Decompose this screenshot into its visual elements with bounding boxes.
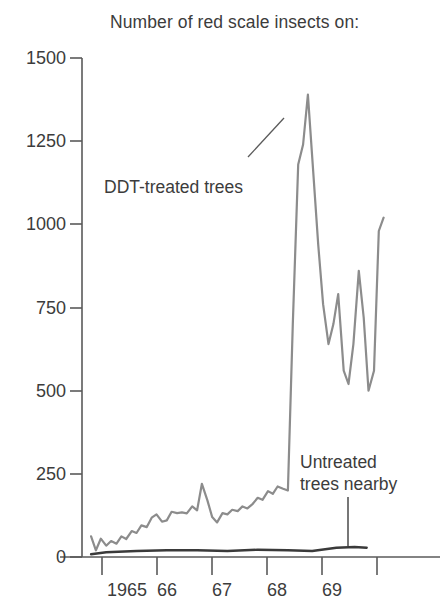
y-axis-label-1500: 1500 [0, 49, 66, 67]
chart-figure: Number of red scale insects on: [0, 0, 446, 615]
y-axis-label-750: 750 [0, 299, 66, 317]
series-line-untreated-trees-nearby [91, 547, 367, 554]
y-axis-label-500: 500 [0, 382, 66, 400]
annotation-ddt-treated-trees: DDT-treated trees [104, 177, 243, 199]
y-axis-label-1250: 1250 [0, 132, 66, 150]
y-axis-ticks [70, 58, 82, 557]
y-axis-label-250: 250 [0, 465, 66, 483]
y-axis-label-0: 0 [0, 548, 66, 566]
x-axis-label-68: 68 [252, 581, 302, 599]
x-axis-label-67: 67 [197, 581, 247, 599]
y-axis-label-1000: 1000 [0, 215, 66, 233]
x-axis-ticks [102, 557, 377, 575]
annotation-untreated-trees-nearby: Untreated trees nearby [300, 452, 397, 496]
x-axis-label-69: 69 [307, 581, 357, 599]
ddt-treated-trees-leader-line [248, 118, 284, 157]
annotation-untreated-line-2: trees nearby [300, 474, 397, 496]
annotation-untreated-line-1: Untreated [300, 452, 397, 474]
x-axis-label-66: 66 [142, 581, 192, 599]
chart-plot-area [0, 0, 446, 615]
